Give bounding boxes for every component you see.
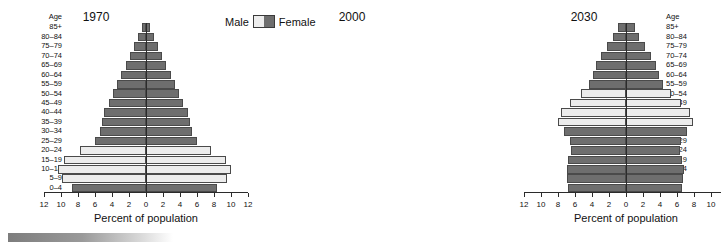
bar-female-60–64: [146, 71, 171, 80]
bar-female-65–69: [146, 61, 166, 70]
bar-male-50–54: [113, 89, 146, 98]
x-tick-label: 8: [76, 200, 80, 209]
bar-female-80–84: [146, 33, 154, 42]
x-tick-label: 6: [93, 200, 97, 209]
bar-female-35–39: [146, 118, 190, 127]
bar-female-5–9: [146, 174, 227, 183]
x-tick: [163, 193, 164, 197]
population-pyramid-figure: Male Female Age85+80–8475–7970–7465–6960…: [0, 0, 721, 246]
x-axis-label: Percent of population: [44, 212, 248, 224]
bar-female-20–24: [146, 146, 211, 155]
panel-title: 2030: [464, 10, 704, 24]
bar-male-65–69: [126, 61, 146, 70]
x-tick: [78, 193, 79, 197]
bar-male-40–44: [104, 108, 146, 117]
bar-male-30–34: [100, 127, 146, 136]
bar-female-40–44: [146, 108, 188, 117]
bar-male-20–24: [80, 146, 146, 155]
x-tick-label: 10: [227, 200, 236, 209]
bar-male-25–29: [95, 137, 146, 146]
x-tick: [61, 193, 62, 197]
x-tick-label: 2: [161, 200, 165, 209]
center-axis-line: [146, 23, 147, 193]
plot-area: 12108642024681012: [44, 23, 248, 193]
bar-male-45–49: [109, 99, 146, 108]
x-tick-label: 0: [144, 200, 148, 209]
x-tick: [180, 193, 181, 197]
pyramid-panel-2000: 200012108642024681012Percent of populati…: [240, 0, 480, 246]
bar-female-15–19: [146, 156, 226, 165]
x-tick: [112, 193, 113, 197]
bar-female-50–54: [146, 89, 179, 98]
x-tick: [197, 193, 198, 197]
pyramid-panel-2030: 203012108642024681012Percent of populati…: [480, 0, 720, 246]
bar-male-10–14: [58, 165, 146, 174]
bar-female-10–14: [146, 165, 231, 174]
panel-title: 2000: [232, 10, 472, 24]
x-tick: [231, 193, 232, 197]
panel-title: 1970: [0, 10, 216, 24]
x-tick: [95, 193, 96, 197]
bar-male-55–59: [117, 80, 146, 89]
bar-male-60–64: [121, 71, 146, 80]
x-tick-label: 2: [127, 200, 131, 209]
footer-gradient-bar: [8, 233, 173, 242]
bar-female-70–74: [146, 52, 162, 61]
bar-male-5–9: [62, 174, 146, 183]
bar-female-45–49: [146, 99, 183, 108]
bar-male-75–79: [134, 42, 146, 51]
x-tick-label: 6: [195, 200, 199, 209]
bar-female-30–34: [146, 127, 192, 136]
bar-male-70–74: [130, 52, 146, 61]
bar-female-75–79: [146, 42, 158, 51]
x-tick: [44, 193, 45, 197]
x-tick-label: 4: [110, 200, 114, 209]
bar-female-25–29: [146, 137, 197, 146]
bar-male-80–84: [138, 33, 146, 42]
x-tick-label: 12: [40, 200, 49, 209]
bar-female-55–59: [146, 80, 175, 89]
x-tick-label: 10: [57, 200, 66, 209]
x-tick-label: 4: [178, 200, 182, 209]
bar-male-15–19: [64, 156, 146, 165]
pyramid-panel-1970: 197012108642024681012Percent of populati…: [0, 0, 240, 246]
x-tick: [129, 193, 130, 197]
x-tick: [214, 193, 215, 197]
x-tick: [146, 193, 147, 197]
x-tick-label: 8: [212, 200, 216, 209]
bar-male-35–39: [102, 118, 146, 127]
